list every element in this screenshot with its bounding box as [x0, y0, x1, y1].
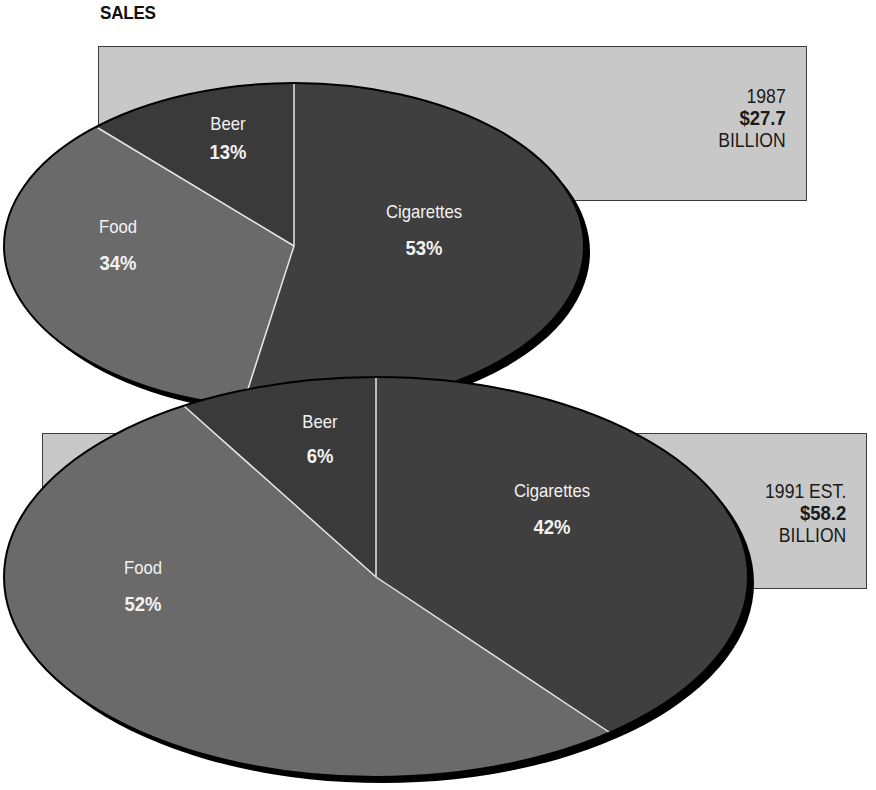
- slice-percent: 34%: [99, 252, 137, 274]
- pie-1987: [0, 60, 600, 420]
- slice-label-beer-1987: Beer 13%: [210, 113, 247, 163]
- slice-name: Food: [124, 557, 162, 579]
- slice-label-cigarettes-1991: Cigarettes 42%: [514, 480, 590, 538]
- slice-percent: 52%: [124, 593, 162, 615]
- slice-name: Beer: [302, 411, 337, 433]
- slice-label-food-1991: Food 52%: [124, 557, 162, 615]
- slice-percent: 42%: [514, 516, 590, 538]
- slice-percent: 6%: [302, 445, 337, 467]
- slice-label-food-1987: Food 34%: [99, 216, 137, 274]
- slice-percent: 53%: [386, 237, 462, 259]
- slice-name: Cigarettes: [386, 201, 462, 223]
- pie-1991: [0, 360, 760, 790]
- slice-name: Cigarettes: [514, 480, 590, 502]
- slice-percent: 13%: [210, 141, 247, 163]
- slice-label-beer-1991: Beer 6%: [302, 411, 337, 467]
- pie-charts: [0, 0, 876, 790]
- slice-name: Beer: [210, 113, 247, 135]
- slice-label-cigarettes-1987: Cigarettes 53%: [386, 201, 462, 259]
- slice-name: Food: [99, 216, 137, 238]
